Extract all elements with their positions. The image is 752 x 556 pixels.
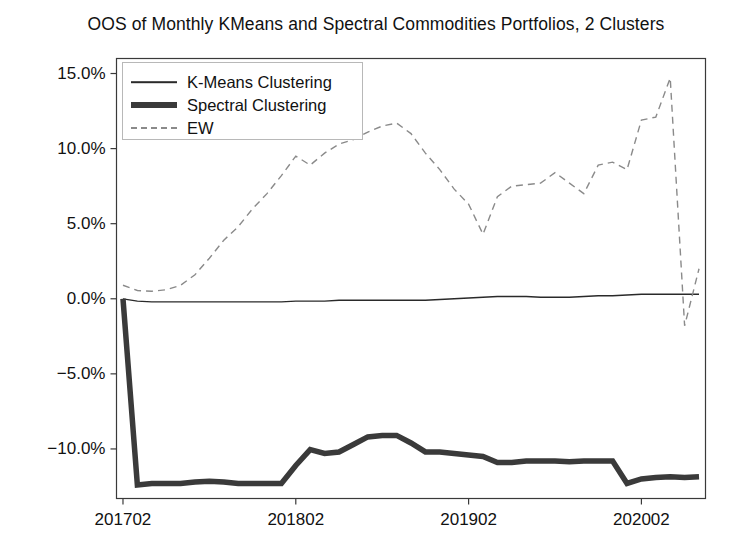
y-tick-label: 0.0% — [67, 289, 106, 309]
series-line-spectral-clustering — [123, 299, 699, 485]
y-tick-label: 15.0% — [57, 64, 105, 84]
x-tick-label: 201802 — [267, 510, 324, 530]
legend-item-label: K-Means Clustering — [187, 73, 332, 92]
legend-swatch-icon — [131, 121, 177, 135]
plot-canvas — [0, 0, 752, 556]
legend-swatch-icon — [131, 98, 177, 112]
legend-swatch-icon — [131, 75, 177, 89]
legend-item[interactable]: EW — [131, 117, 214, 139]
x-tick-label: 201702 — [95, 510, 152, 530]
chart-legend: K-Means ClusteringSpectral ClusteringEW — [122, 62, 363, 140]
series-line-k-means-clustering — [123, 294, 699, 302]
x-tick-label: 201902 — [440, 510, 497, 530]
x-tick-label: 202002 — [613, 510, 670, 530]
legend-item[interactable]: Spectral Clustering — [131, 94, 326, 116]
y-tick-label: −10.0% — [47, 439, 105, 459]
y-tick-label: −5.0% — [57, 364, 106, 384]
y-tick-label: 10.0% — [57, 139, 105, 159]
legend-item[interactable]: K-Means Clustering — [131, 71, 332, 93]
legend-item-label: Spectral Clustering — [187, 96, 326, 115]
chart-figure: OOS of Monthly KMeans and Spectral Commo… — [0, 0, 752, 556]
y-tick-label: 5.0% — [67, 214, 106, 234]
legend-item-label: EW — [187, 119, 214, 138]
